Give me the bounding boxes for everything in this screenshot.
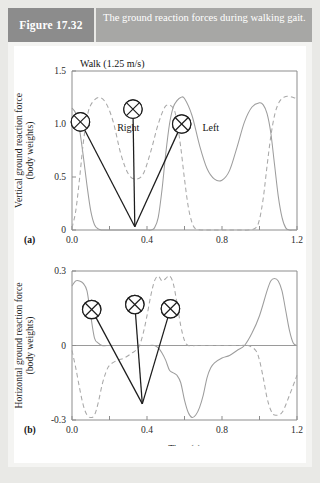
x-tick-label: 0.8 xyxy=(216,235,228,245)
foot-contact-marker xyxy=(172,115,190,133)
marker-leader-line xyxy=(85,130,135,227)
y-tick-label: 1.0 xyxy=(54,119,66,129)
y-tick-label: -0.3 xyxy=(51,415,66,425)
foot-contact-marker xyxy=(126,295,144,313)
x-tick-label: 0.0 xyxy=(66,235,78,245)
figure-caption: The ground reaction forces during walkin… xyxy=(94,8,312,42)
series-label-left: Left xyxy=(202,122,219,133)
plot-frame xyxy=(72,71,297,230)
figure-container: Figure 17.32 The ground reaction forces … xyxy=(0,0,320,483)
curve-right xyxy=(72,276,297,418)
y-axis-label: Vertical ground reaction force(body weig… xyxy=(13,93,36,208)
x-tick-label: 0.4 xyxy=(141,235,153,245)
series-label-right: Right xyxy=(117,122,139,133)
marker-leader-line xyxy=(142,318,168,404)
page-footer-text xyxy=(18,470,302,479)
x-tick-label: 0.8 xyxy=(216,425,228,435)
x-axis-label: Time (s) xyxy=(168,443,200,446)
y-axis-label: Horizontal ground reaction force(body we… xyxy=(13,283,36,409)
x-tick-label: 1.2 xyxy=(291,425,303,435)
y-tick-label: 0 xyxy=(61,225,66,235)
panel-b-svg: 0.00.40.81.2-0.300.3Horizontal ground re… xyxy=(0,246,320,446)
y-axis-label-line1: Horizontal ground reaction force xyxy=(13,283,24,409)
condition-label: Walk (1.25 m/s) xyxy=(80,58,144,70)
y-tick-label: 1.5 xyxy=(54,66,66,76)
x-tick-label: 0.0 xyxy=(66,425,78,435)
y-axis-label-line2: (body weights) xyxy=(24,317,36,375)
marker-leader-line xyxy=(96,318,142,404)
curve-left xyxy=(72,278,297,417)
foot-contact-marker xyxy=(161,300,179,318)
foot-contact-marker xyxy=(82,300,100,318)
marker-leader-line xyxy=(133,118,135,226)
y-tick-label: 0.5 xyxy=(54,172,66,182)
y-tick-label: 0 xyxy=(61,341,66,351)
panel-label: (b) xyxy=(24,424,36,436)
foot-contact-marker xyxy=(71,113,89,131)
y-axis-label-line1: Vertical ground reaction force xyxy=(13,93,24,208)
marker-leader-line xyxy=(136,314,143,404)
y-tick-label: 0.3 xyxy=(54,266,66,276)
panel-label: (a) xyxy=(24,234,35,246)
figure-number-badge: Figure 17.32 xyxy=(8,8,94,42)
foot-contact-marker xyxy=(124,100,142,118)
panel-a-svg: 0.00.40.81.200.51.01.5RightLeftVertical … xyxy=(0,46,320,246)
x-tick-label: 0.4 xyxy=(141,425,153,435)
panel-b-horizontal-force-chart: 0.00.40.81.2-0.300.3Horizontal ground re… xyxy=(0,246,320,446)
figure-header: Figure 17.32 The ground reaction forces … xyxy=(8,8,312,42)
x-tick-label: 1.2 xyxy=(291,235,303,245)
marker-leader-line xyxy=(135,132,178,226)
panel-a-vertical-force-chart: 0.00.40.81.200.51.01.5RightLeftVertical … xyxy=(0,46,320,246)
y-axis-label-line2: (body weights) xyxy=(24,122,36,180)
